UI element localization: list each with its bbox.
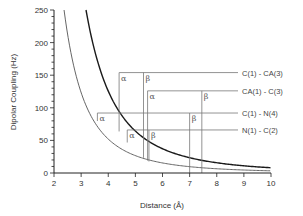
annotation-label: CA(1) - C(3) [242,87,283,96]
x-tick-label: 10 [267,179,276,188]
x-axis-title: Distance (Å) [140,201,184,210]
x-tick-label: 2 [52,179,57,188]
y-tick-label: 200 [35,39,49,48]
annotation-label: C(1) - N(4) [242,109,278,118]
x-tick-label: 4 [106,179,111,188]
beta-label: β [146,74,151,83]
y-tick-label: 50 [39,136,48,145]
x-tick-label: 9 [242,179,247,188]
beta-label: β [151,131,156,140]
annotation-label: N(1) - C(2) [242,126,278,135]
beta-label: β [192,114,197,123]
x-tick-label: 8 [215,179,220,188]
x-tick-label: 5 [133,179,138,188]
alpha-label: α [129,131,135,140]
beta-label: β [204,92,209,101]
y-tick-label: 250 [35,6,49,15]
alpha-label: α [121,74,127,83]
alpha-label: α [150,92,156,101]
y-tick-label: 0 [44,169,49,178]
y-tick-label: 150 [35,71,49,80]
alpha-label: α [99,114,105,123]
y-tick-label: 100 [35,104,49,113]
coupling-curves [64,10,270,171]
x-tick-label: 3 [79,179,84,188]
x-tick-label: 6 [160,179,165,188]
x-tick-label: 7 [187,179,192,188]
annotation-label: C(1) - CA(3) [242,69,283,78]
dipolar-coupling-chart: αβC(1) - CA(3)αβCA(1) - C(3)αβC(1) - N(4… [0,0,303,216]
light-curve [64,10,270,171]
y-axis-title: Dipolar Coupling (Hz) [9,53,18,130]
axes: 0501001502002502345678910 [35,6,276,188]
